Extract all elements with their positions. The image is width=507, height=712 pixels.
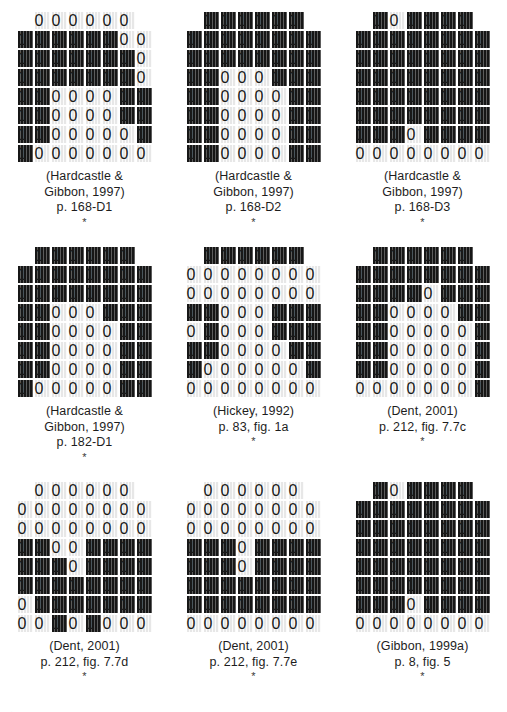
epg-cell-no-contact: 0 xyxy=(255,88,270,105)
epg-cell-no-contact: 0 xyxy=(221,69,236,86)
epg-cell-contact: 1 xyxy=(289,304,304,321)
epg-cell-contact: 1 xyxy=(187,69,202,86)
palatogram-panel: 1111111111111111110111110000111100000111… xyxy=(338,235,507,470)
epg-cell-no-contact: 0 xyxy=(272,342,287,359)
epg-cell-contact: 1 xyxy=(306,145,321,162)
epg-cell-no-contact: 0 xyxy=(221,615,236,632)
epg-cell-no-contact: 0 xyxy=(390,323,405,340)
epg-cell-no-contact: 0 xyxy=(52,539,67,556)
epg-cell-no-contact: 0 xyxy=(238,361,253,378)
epg-row: 10000001 xyxy=(187,361,321,378)
epg-cell-no-contact: 0 xyxy=(289,482,304,499)
epg-cell-no-contact: 0 xyxy=(120,615,135,632)
epg-cell-contact: 1 xyxy=(475,285,490,302)
caption-asterisk: * xyxy=(44,452,125,462)
epg-cell-contact: 1 xyxy=(204,69,219,86)
epg-cell-contact: 1 xyxy=(373,266,388,283)
epg-cell-no-contact: 0 xyxy=(103,145,118,162)
caption-line: (Hardcastle & xyxy=(382,169,463,185)
epg-cell-no-contact: 0 xyxy=(390,12,405,29)
epg-cell-contact: 1 xyxy=(424,88,439,105)
epg-cell-contact: 1 xyxy=(103,266,118,283)
epg-cell-contact: 1 xyxy=(18,285,33,302)
epg-row: 101111 xyxy=(373,12,473,29)
epg-cell-no-contact: 0 xyxy=(238,145,253,162)
epg-cell-contact: 1 xyxy=(18,266,33,283)
epg-cell-contact: 1 xyxy=(390,247,405,264)
panel-caption: (Dent, 2001)p. 212, fig. 7.7c* xyxy=(379,404,466,446)
caption-line: (Hickey, 1992) xyxy=(213,404,294,420)
epg-cell-contact: 1 xyxy=(103,596,118,613)
epg-cell-contact: 1 xyxy=(35,342,50,359)
epg-cell-no-contact: 0 xyxy=(187,501,202,518)
epg-cell-contact: 1 xyxy=(407,266,422,283)
epg-cell-no-contact: 0 xyxy=(103,520,118,537)
epg-cell-no-contact: 0 xyxy=(407,145,422,162)
epg-cell-no-contact: 0 xyxy=(390,380,405,397)
epg-cell-no-contact: 0 xyxy=(255,615,270,632)
epg-cell-no-contact: 0 xyxy=(458,615,473,632)
epg-row: 11101111 xyxy=(356,596,490,613)
epg-cell-contact: 1 xyxy=(306,323,321,340)
epg-cell-no-contact: 0 xyxy=(424,615,439,632)
epg-cell-no-contact: 0 xyxy=(120,501,135,518)
epg-cell-no-contact: 0 xyxy=(255,304,270,321)
epg-cell-no-contact: 0 xyxy=(289,380,304,397)
epg-cell-contact: 1 xyxy=(86,596,101,613)
epg-cell-contact: 1 xyxy=(120,285,135,302)
epg-cell-contact: 1 xyxy=(69,69,84,86)
panel-caption: (Hardcastle &Gibbon, 1997)p. 168-D3* xyxy=(382,169,463,227)
epg-cell-contact: 1 xyxy=(458,31,473,48)
epg-cell-contact: 1 xyxy=(475,304,490,321)
epg-cell-no-contact: 0 xyxy=(272,107,287,124)
epg-cell-contact: 1 xyxy=(475,380,490,397)
epg-cell-contact: 1 xyxy=(356,31,371,48)
epg-cell-contact: 1 xyxy=(35,285,50,302)
epg-cell-contact: 1 xyxy=(373,50,388,67)
epg-cell-no-contact: 0 xyxy=(204,285,219,302)
epg-cell-contact: 1 xyxy=(424,266,439,283)
palatogram-panel: 0000001111110011111110111111101100001111… xyxy=(0,0,169,235)
epg-cell-no-contact: 0 xyxy=(238,285,253,302)
epg-cell-contact: 1 xyxy=(441,482,456,499)
epg-cell-no-contact: 0 xyxy=(238,380,253,397)
epg-cell-no-contact: 0 xyxy=(52,342,67,359)
epg-cell-no-contact: 0 xyxy=(52,107,67,124)
epg-cell-contact: 1 xyxy=(35,69,50,86)
epg-cell-contact: 1 xyxy=(373,323,388,340)
epg-cell-contact: 1 xyxy=(137,342,152,359)
panel-caption: (Dent, 2001)p. 212, fig. 7.7d* xyxy=(41,639,129,681)
epg-cell-contact: 1 xyxy=(407,50,422,67)
epg-cell-contact: 1 xyxy=(475,266,490,283)
epg-row: 11111111 xyxy=(18,285,152,302)
epg-cell-contact: 1 xyxy=(187,145,202,162)
epg-cell-no-contact: 0 xyxy=(137,145,152,162)
epg-cell-no-contact: 0 xyxy=(289,361,304,378)
epg-cell-contact: 1 xyxy=(289,88,304,105)
panel-caption: (Hardcastle &Gibbon, 1997)p. 182-D1* xyxy=(44,404,125,462)
epg-cell-no-contact: 0 xyxy=(137,615,152,632)
epg-cell-no-contact: 0 xyxy=(69,380,84,397)
epg-cell-no-contact: 0 xyxy=(221,520,236,537)
epg-cell-contact: 1 xyxy=(407,31,422,48)
epg-cell-no-contact: 0 xyxy=(221,380,236,397)
epg-cell-no-contact: 0 xyxy=(69,145,84,162)
epg-cell-contact: 1 xyxy=(390,558,405,575)
caption-line: Gibbon, 1997) xyxy=(44,420,125,436)
epg-cell-contact: 1 xyxy=(390,31,405,48)
epg-cell-no-contact: 0 xyxy=(52,88,67,105)
epg-cell-no-contact: 0 xyxy=(52,482,67,499)
epg-cell-contact: 1 xyxy=(204,145,219,162)
epg-cell-contact: 1 xyxy=(356,88,371,105)
epg-cell-no-contact: 0 xyxy=(52,12,67,29)
epg-row: 00000000 xyxy=(356,615,490,632)
epg-cell-contact: 1 xyxy=(103,247,118,264)
epg-row: 11000001 xyxy=(18,126,152,143)
epg-cell-contact: 1 xyxy=(35,558,50,575)
epg-cell-no-contact: 0 xyxy=(204,361,219,378)
epg-cell-no-contact: 0 xyxy=(120,145,135,162)
epg-row: 11111111 xyxy=(356,107,490,124)
epg-row: 00000000 xyxy=(187,501,321,518)
epg-row: 111111 xyxy=(373,247,473,264)
epg-cell-contact: 1 xyxy=(424,482,439,499)
